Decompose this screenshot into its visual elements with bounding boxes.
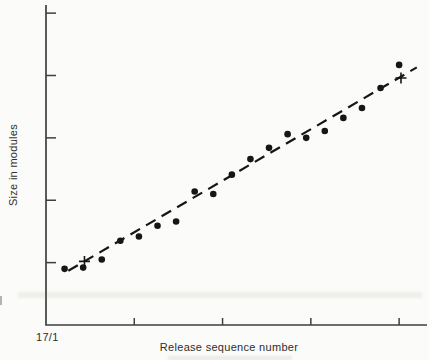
data-point-dot xyxy=(321,128,328,135)
data-point-dot xyxy=(377,85,384,92)
data-point-dot xyxy=(359,105,366,112)
data-point-dot xyxy=(284,131,291,138)
data-point-dot xyxy=(136,233,143,240)
data-point-dot xyxy=(210,191,217,198)
data-point-dot xyxy=(191,188,198,195)
growth-trend-figure: Size in modules Release sequence number … xyxy=(0,0,429,360)
x-axis-title: Release sequence number xyxy=(160,341,298,353)
data-point-dot xyxy=(154,223,161,230)
plus-marker xyxy=(395,72,406,83)
data-point-dot xyxy=(80,264,87,271)
data-point-dot xyxy=(303,135,310,142)
y-axis-title: Size in modules xyxy=(7,124,19,206)
data-point-dot xyxy=(247,156,254,163)
data-point-dot xyxy=(173,218,180,225)
plus-marker xyxy=(79,256,90,267)
origin-tick-label: 17/1 xyxy=(36,331,59,343)
data-point-dot xyxy=(266,145,273,152)
scatter-plot-canvas xyxy=(0,0,429,360)
data-point-dot xyxy=(340,115,347,122)
data-point-dot xyxy=(117,237,124,244)
data-point-dot xyxy=(229,171,236,178)
data-point-dot xyxy=(98,256,105,263)
data-point-dot xyxy=(61,266,68,273)
axes-lines xyxy=(46,5,427,325)
data-point-dot xyxy=(396,62,403,69)
